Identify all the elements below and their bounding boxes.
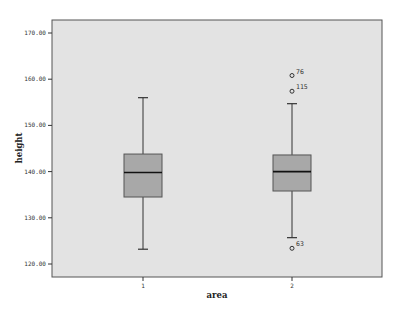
outlier-label: 76 — [296, 68, 304, 76]
y-tick-label: 170.00 — [24, 29, 46, 36]
x-tick-label: 1 — [141, 282, 145, 289]
y-tick-label: 160.00 — [24, 75, 46, 82]
box-plot-chart: 120.00130.00140.00150.00160.00170.00 12 … — [0, 0, 395, 315]
iqr-box — [124, 154, 162, 197]
plot-area — [52, 20, 382, 277]
y-axis-title: height — [14, 132, 24, 163]
y-tick-label: 140.00 — [24, 168, 46, 175]
y-tick-label: 150.00 — [24, 121, 46, 128]
y-axis: 120.00130.00140.00150.00160.00170.00 — [24, 29, 52, 267]
y-tick-label: 130.00 — [24, 214, 46, 221]
iqr-box — [273, 155, 311, 191]
x-tick-label: 2 — [290, 282, 294, 289]
outlier-label: 63 — [296, 240, 304, 248]
outlier-label: 115 — [296, 83, 308, 91]
x-axis: 12 — [141, 277, 294, 289]
x-axis-title: area — [207, 290, 228, 300]
y-tick-label: 120.00 — [24, 260, 46, 267]
